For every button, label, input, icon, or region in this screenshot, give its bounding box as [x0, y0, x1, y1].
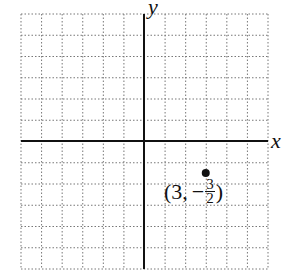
denominator: 2: [206, 192, 214, 205]
coordinate-plane: [0, 0, 300, 276]
fraction: 3 2: [205, 178, 215, 205]
y-axis-label: y: [148, 0, 158, 20]
point-x-value: 3: [171, 179, 182, 205]
x-axis-label: x: [271, 128, 281, 154]
open-paren: (: [164, 179, 171, 205]
comma: ,: [182, 179, 188, 205]
minus-sign: −: [192, 179, 204, 205]
close-paren: ): [216, 179, 223, 205]
point-label: ( 3 , − 3 2 ): [164, 178, 223, 205]
